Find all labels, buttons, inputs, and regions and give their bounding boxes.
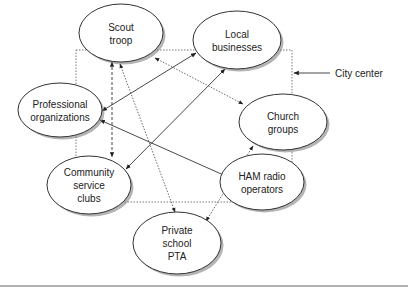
- node-ellipse: [18, 83, 102, 137]
- node-ellipse: [220, 154, 304, 210]
- node-label-line: operators: [241, 184, 283, 195]
- node-label-line: PTA: [168, 251, 187, 262]
- node-label-line: Professional: [32, 99, 87, 110]
- node-label-line: Community: [64, 167, 115, 178]
- node-pta[interactable]: PrivateschoolPTA: [133, 212, 224, 277]
- node-label-line: groups: [268, 124, 299, 135]
- node-ellipse: [193, 11, 281, 69]
- nodes: ScouttroopLocalbusinessesProfessionalorg…: [18, 4, 330, 277]
- node-label-line: school: [163, 238, 192, 249]
- node-ellipse: [79, 4, 163, 62]
- node-label-line: Church: [267, 111, 299, 122]
- city-center-label: City center: [335, 68, 383, 79]
- node-label-line: HAM radio: [238, 171, 286, 182]
- node-label-line: Local: [225, 29, 249, 40]
- node-label-line: organizations: [30, 112, 89, 123]
- node-prof[interactable]: Professionalorganizations: [18, 83, 105, 140]
- community-network-diagram: City center ScouttroopLocalbusinessesPro…: [0, 0, 408, 288]
- node-label-line: clubs: [77, 193, 100, 204]
- node-community[interactable]: Communityserviceclubs: [47, 156, 134, 217]
- node-label-line: troop: [110, 35, 133, 46]
- node-ellipse: [239, 94, 327, 150]
- node-label-line: businesses: [212, 42, 262, 53]
- node-local[interactable]: Localbusinesses: [193, 11, 284, 72]
- node-label-line: service: [73, 180, 105, 191]
- node-scout[interactable]: Scouttroop: [79, 4, 166, 65]
- node-church[interactable]: Churchgroups: [239, 94, 330, 153]
- node-label-line: Private: [161, 225, 193, 236]
- node-label-line: Scout: [108, 22, 134, 33]
- node-ham[interactable]: HAM radiooperators: [220, 154, 307, 213]
